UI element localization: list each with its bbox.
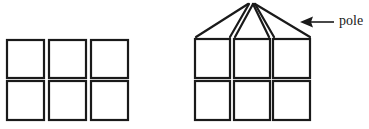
convergence-line bbox=[253, 4, 269, 37]
pole-label: pole bbox=[339, 14, 363, 28]
left-grid-cell bbox=[49, 40, 86, 78]
right-grid bbox=[195, 39, 310, 120]
right-grid-cell bbox=[273, 39, 310, 78]
right-grid-cell bbox=[234, 81, 270, 120]
pole-convergence-lines bbox=[196, 4, 310, 37]
left-grid-cell bbox=[7, 81, 44, 120]
convergence-line bbox=[235, 4, 253, 37]
left-grid-cell bbox=[91, 81, 128, 120]
diagram-canvas bbox=[0, 0, 369, 129]
left-grid-cell bbox=[91, 40, 128, 78]
right-grid-cell bbox=[234, 39, 270, 78]
right-grid-cell bbox=[195, 81, 230, 120]
right-grid-cell bbox=[195, 39, 230, 78]
right-grid-cell bbox=[273, 81, 310, 120]
left-grid-cell bbox=[7, 40, 44, 78]
left-grid bbox=[7, 40, 128, 120]
pole-arrow bbox=[300, 17, 334, 28]
left-grid-cell bbox=[49, 81, 86, 120]
